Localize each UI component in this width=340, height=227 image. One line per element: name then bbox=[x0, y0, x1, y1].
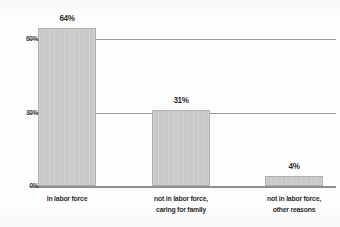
x-axis-category-label: not in labor force, other reasons bbox=[253, 194, 336, 215]
bar-texture bbox=[153, 111, 209, 185]
bar-not-in-labor-force-caring-for-family[interactable] bbox=[152, 110, 210, 186]
category-label-line: in labor force bbox=[26, 194, 109, 205]
x-axis-category-label: not in labor force, caring for family bbox=[140, 194, 223, 215]
x-axis-category-label: in labor force bbox=[26, 194, 109, 205]
y-tick-label-30: 30% bbox=[26, 109, 38, 117]
category-label-line: not in labor force, bbox=[253, 194, 336, 205]
bar-value-label: 64% bbox=[41, 13, 93, 23]
bar-texture bbox=[39, 29, 95, 185]
bar-texture bbox=[266, 177, 322, 185]
y-tick-label-60: 60% bbox=[26, 35, 38, 43]
plot-area: 60% 30% 0% 64% 31% 4% in labor force not… bbox=[0, 0, 340, 227]
category-label-line: caring for family bbox=[140, 205, 223, 216]
y-tick-label-0: 0% bbox=[29, 182, 38, 190]
x-axis-line bbox=[33, 186, 336, 188]
category-label-line: other reasons bbox=[253, 205, 336, 216]
bar-chart: 60% 30% 0% 64% 31% 4% in labor force not… bbox=[0, 0, 340, 227]
category-label-line: not in labor force, bbox=[140, 194, 223, 205]
bar-not-in-labor-force-other-reasons[interactable] bbox=[265, 176, 323, 186]
bar-value-label: 31% bbox=[155, 95, 207, 105]
bar-value-label: 4% bbox=[268, 161, 320, 171]
bar-in-labor-force[interactable] bbox=[38, 28, 96, 186]
